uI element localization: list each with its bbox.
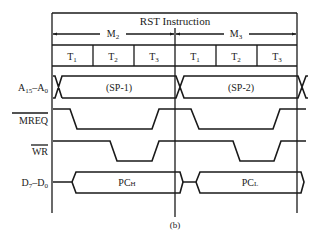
diagram-title: RST Instruction xyxy=(140,15,211,27)
arrow-right-icon xyxy=(170,33,174,36)
diagram-frame xyxy=(52,13,297,217)
machine-cycle-m3: M3 xyxy=(176,28,296,41)
arrow-left-icon xyxy=(53,33,57,36)
t-state-m3-t1: T1 xyxy=(190,51,200,64)
data-value-pch: PCH xyxy=(118,177,135,188)
arrow-left-icon xyxy=(176,33,180,36)
signal-label-wr: WR xyxy=(31,145,48,157)
mreq-waveform xyxy=(53,109,306,129)
m3-subscript: 3 xyxy=(239,33,243,41)
t-state-m3-t2: T2 xyxy=(231,51,241,64)
svg-text:MREQ: MREQ xyxy=(19,115,49,126)
t-state-m3-t3: T3 xyxy=(272,51,282,64)
m2-label: M xyxy=(107,28,116,39)
figure-caption: (b) xyxy=(170,220,181,230)
data-bus-waveform: PCH PCL xyxy=(53,172,304,193)
svg-text:M2: M2 xyxy=(107,28,120,41)
t-state-m2-t2: T2 xyxy=(108,51,118,64)
m3-label: M xyxy=(230,28,239,39)
svg-text:WR: WR xyxy=(32,146,48,157)
data-value-pcl: PCL xyxy=(242,177,259,188)
address-bus-waveform: (SP-1) (SP-2) xyxy=(53,76,308,98)
t-state-m2-t1: T1 xyxy=(67,51,77,64)
signal-label-address-bus: A15–A0 xyxy=(18,82,48,95)
svg-text:M3: M3 xyxy=(230,28,243,41)
arrow-right-icon xyxy=(292,33,296,36)
signal-label-mreq: MREQ xyxy=(12,113,49,126)
address-value-sp-2: (SP-2) xyxy=(228,82,254,94)
m2-subscript: 2 xyxy=(116,33,120,41)
address-value-sp-1: (SP-1) xyxy=(106,82,132,94)
t-state-m2-t3: T3 xyxy=(149,51,159,64)
wr-waveform xyxy=(53,141,306,161)
signal-label-data-bus: D7–D0 xyxy=(22,177,49,190)
timing-diagram: RST Instruction M2 M3 T1 T2 T3 T1 T2 T3 … xyxy=(0,0,326,236)
machine-cycle-m2: M2 xyxy=(53,28,174,41)
